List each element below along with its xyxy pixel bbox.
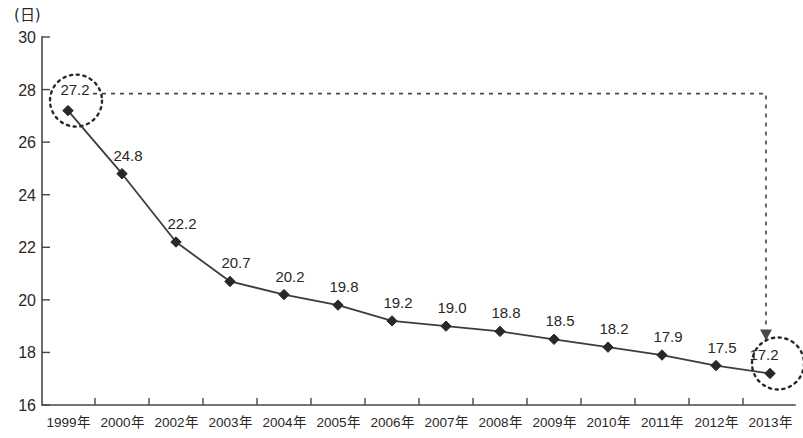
y-axis-tick-label: 20	[18, 292, 36, 309]
data-point-marker	[549, 334, 559, 344]
y-axis-tick-label: 30	[18, 29, 36, 46]
highlight-circles	[50, 75, 803, 390]
data-point-marker	[279, 289, 289, 299]
x-axis-tick-label: 2012年	[694, 415, 737, 430]
data-point-label: 19.0	[437, 299, 466, 316]
x-axis-tick-label: 2011年	[641, 415, 683, 430]
data-point-marker	[657, 350, 667, 360]
data-point-label: 17.9	[653, 328, 682, 345]
data-point-label: 17.5	[707, 339, 736, 356]
data-point-marker	[603, 342, 613, 352]
chart-axes	[42, 37, 795, 405]
data-point-label: 24.8	[113, 147, 142, 164]
data-point-label: 19.8	[329, 278, 358, 295]
x-axis-tick-label: 2008年	[478, 415, 521, 430]
data-point-label: 19.2	[383, 294, 412, 311]
x-axis-tick-label: 2013年	[748, 415, 791, 430]
x-axis-tick-label: 2003年	[208, 415, 251, 430]
y-axis-unit-label: (日)	[14, 6, 41, 24]
data-point-marker	[333, 300, 343, 310]
x-axis-tick-label: 1999年	[46, 415, 89, 430]
series-value-labels: 27.224.822.220.720.219.819.219.018.818.5…	[60, 81, 778, 364]
data-point-marker	[711, 360, 721, 370]
y-axis-tick-label: 26	[18, 134, 36, 151]
y-axis-tick-label: 24	[18, 187, 36, 204]
data-point-marker	[441, 321, 451, 331]
data-point-label: 22.2	[167, 215, 196, 232]
x-axis-tick-label: 2005年	[316, 415, 359, 430]
line-chart: (日) 3028262422201816 1999年2000年2002年2003…	[0, 0, 803, 438]
y-axis-tick-label: 16	[18, 397, 36, 414]
x-axis-tick-label: 2002年	[154, 415, 197, 430]
chart-canvas: (日) 3028262422201816 1999年2000年2002年2003…	[0, 0, 803, 438]
x-axis-tick-label: 2009年	[532, 415, 575, 430]
data-point-marker	[765, 368, 775, 378]
data-point-label: 20.7	[221, 254, 250, 271]
data-point-label: 18.5	[545, 312, 574, 329]
data-point-label: 27.2	[60, 81, 89, 98]
data-point-label: 18.2	[599, 320, 628, 337]
x-axis-tick-label: 2007年	[424, 415, 467, 430]
x-axis-tick-label: 2006年	[370, 415, 413, 430]
data-point-marker	[495, 326, 505, 336]
y-axis-tick-label: 18	[18, 344, 36, 361]
comparison-arrow-head	[760, 329, 772, 340]
data-point-marker	[387, 316, 397, 326]
x-axis-tick-label: 2010年	[586, 415, 629, 430]
x-axis-tick-labels: 1999年2000年2002年2003年2004年2005年2006年2007年…	[46, 415, 791, 430]
y-axis-ticks: 3028262422201816	[18, 29, 50, 414]
y-axis-tick-label: 22	[18, 239, 36, 256]
x-axis-ticks	[95, 398, 743, 405]
data-point-label: 20.2	[275, 268, 304, 285]
data-point-label: 18.8	[491, 304, 520, 321]
x-axis-tick-label: 2000年	[100, 415, 143, 430]
x-axis-tick-label: 2004年	[262, 415, 305, 430]
comparison-arrow-line	[93, 94, 766, 330]
y-axis-tick-label: 28	[18, 82, 36, 99]
